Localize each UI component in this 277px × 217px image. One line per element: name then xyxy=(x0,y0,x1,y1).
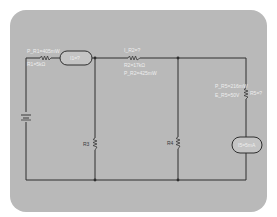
resistor-r4-icon xyxy=(176,137,180,149)
r3-label: R3 xyxy=(83,141,90,147)
r4-label: R4 xyxy=(167,140,174,146)
r1-power-label: P_R1=405mW xyxy=(27,48,60,54)
circuit-diagram: P_R1=405mW R1=5kΩ I1=? I_R2=? R2=17kΩ P_… xyxy=(0,0,277,217)
r1-value-label: R1=5kΩ xyxy=(27,61,46,67)
junction-dot xyxy=(94,179,97,182)
r2-current-label: I_R2=? xyxy=(124,47,140,53)
junction-dot xyxy=(177,179,180,182)
resistor-r1-icon xyxy=(40,56,51,60)
resistor-r2-icon xyxy=(128,56,140,60)
r5-power-label: P_R5=216mW xyxy=(215,83,248,89)
resistor-r3-icon xyxy=(93,138,97,150)
r5-value-label: R5=? xyxy=(250,90,262,96)
r5-voltage-label: E_R5=50V xyxy=(215,92,240,98)
i5-label: I5=5mA xyxy=(238,142,256,148)
r2-power-label: P_R2=425mW xyxy=(124,70,157,76)
junction-dot xyxy=(94,57,97,60)
i1-label: I1=? xyxy=(70,55,80,61)
r2-value-label: R2=17kΩ xyxy=(124,62,145,68)
battery-icon xyxy=(21,112,31,122)
junction-dot xyxy=(177,57,180,60)
resistor-r5-icon xyxy=(244,88,248,99)
wire-bottom xyxy=(26,153,246,180)
